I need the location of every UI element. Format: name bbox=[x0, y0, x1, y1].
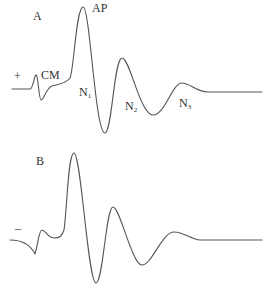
ap-label: AP bbox=[92, 2, 107, 14]
n3-main: N bbox=[179, 96, 188, 110]
n1-label: N1 bbox=[79, 86, 91, 100]
n3-subscript: 3 bbox=[188, 103, 192, 111]
n2-subscript: 2 bbox=[134, 106, 138, 114]
panel-label-b: B bbox=[36, 155, 44, 167]
cm-label: CM bbox=[41, 69, 60, 81]
n2-main: N bbox=[125, 99, 134, 113]
n2-label: N2 bbox=[125, 100, 137, 114]
panel-label-a: A bbox=[33, 10, 42, 22]
polarity-minus-label: – bbox=[15, 222, 21, 234]
n1-subscript: 1 bbox=[88, 92, 92, 100]
polarity-plus-label: + bbox=[14, 70, 21, 82]
waveform-b-trace bbox=[10, 153, 262, 283]
n3-label: N3 bbox=[179, 97, 191, 111]
waveform-diagram bbox=[0, 0, 269, 295]
n1-main: N bbox=[79, 85, 88, 99]
